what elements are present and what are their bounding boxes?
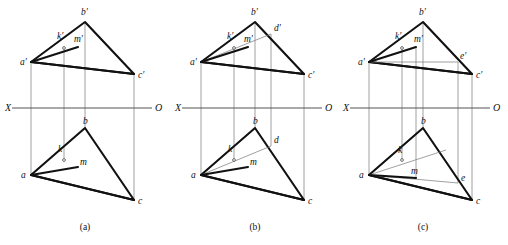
horizontal-aux-a-k [369, 150, 446, 175]
caption-b: (b) [225, 222, 285, 232]
panel-a: X O k′ m′ a′ b′ c′ k m a b c (a) [0, 0, 170, 215]
frontal-triangle [201, 22, 304, 74]
label-d: d [274, 135, 279, 145]
axis-label-o: O [155, 102, 162, 113]
label-c: c [138, 196, 143, 206]
label-a: a [359, 170, 364, 180]
frontal-chord-a-c [369, 62, 472, 74]
axis-label-o: O [493, 102, 500, 113]
frontal-chord-a-c [31, 62, 134, 74]
frontal-chord-a-c [201, 62, 304, 74]
label-m-prime: m′ [414, 34, 424, 44]
label-a-prime: a′ [190, 57, 198, 67]
point-k-prime [63, 47, 66, 50]
point-k-prime [401, 47, 404, 50]
caption-c: (c) [393, 222, 453, 232]
frontal-triangle [31, 22, 134, 74]
label-c-prime: c′ [476, 70, 483, 80]
label-b: b [253, 116, 258, 126]
label-a: a [21, 170, 26, 180]
label-e: e [461, 173, 465, 183]
frontal-line-a-m [201, 47, 248, 62]
axis-label-x: X [174, 102, 182, 113]
axis-label-x: X [342, 102, 350, 113]
label-e-prime: e′ [460, 51, 467, 61]
label-c: c [476, 196, 481, 206]
label-k-prime: k′ [395, 31, 402, 41]
figure-sheet: X O k′ m′ a′ b′ c′ k m a b c (a) [0, 0, 508, 245]
panel-b: X O k′ m′ a′ b′ d′ c′ k m a b d c (b) [170, 0, 340, 215]
horizontal-triangle [369, 128, 472, 200]
label-m: m [80, 157, 87, 167]
label-c-prime: c′ [138, 70, 145, 80]
frontal-triangle [369, 22, 472, 74]
label-b-prime: b′ [251, 7, 259, 17]
label-b: b [421, 116, 426, 126]
label-b-prime: b′ [419, 7, 427, 17]
axis-label-x: X [4, 102, 12, 113]
label-c: c [308, 196, 313, 206]
diagram-c: X O k′ m′ a′ b′ e′ c′ k m a b e c [338, 0, 508, 215]
diagram-b: X O k′ m′ a′ b′ d′ c′ k m a b d c [170, 0, 340, 215]
label-m-prime: m′ [244, 34, 254, 44]
point-k [233, 159, 236, 162]
label-m: m [411, 166, 418, 176]
label-k-prime: k′ [57, 31, 64, 41]
diagram-a: X O k′ m′ a′ b′ c′ k m a b c [0, 0, 170, 215]
label-m-prime: m′ [74, 34, 84, 44]
horizontal-aux-a-d [201, 146, 271, 175]
label-b-prime: b′ [81, 7, 89, 17]
label-b: b [83, 116, 88, 126]
caption-a: (a) [55, 222, 115, 232]
point-k [401, 159, 404, 162]
label-d-prime: d′ [274, 23, 282, 33]
label-a-prime: a′ [358, 57, 366, 67]
label-c-prime: c′ [308, 70, 315, 80]
frontal-line-a-m [31, 47, 78, 62]
label-a: a [191, 170, 196, 180]
point-k-prime [233, 47, 236, 50]
panel-c: X O k′ m′ a′ b′ e′ c′ k m a b e c (c) [338, 0, 508, 215]
label-m: m [250, 157, 257, 167]
point-k [63, 159, 66, 162]
label-a-prime: a′ [20, 57, 28, 67]
frontal-line-a-m [369, 47, 416, 62]
axis-label-o: O [325, 102, 332, 113]
label-k-prime: k′ [227, 31, 234, 41]
